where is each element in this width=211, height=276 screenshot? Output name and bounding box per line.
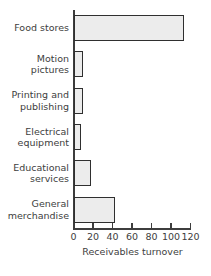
bar-row: Educational services [0,155,211,191]
bar-row: Electrical equipment [0,119,211,155]
bar-label-electrical-equipment: Electrical equipment [0,126,69,149]
plot-area: Food stores Motion pictures Printing and… [0,0,211,228]
bar-educational-services [74,160,91,186]
x-axis-tick [112,223,114,228]
value-axis: Receivables turnover 020406080100120 [0,228,211,276]
x-axis-tick [73,223,75,228]
bar-row: Food stores [0,10,211,46]
bar-label-educational-services: Educational services [0,162,69,185]
receivables-turnover-bar-chart: Food stores Motion pictures Printing and… [0,0,211,276]
x-axis-tick [151,223,153,228]
bar-label-printing-and-publishing: Printing and publishing [0,89,69,112]
bar-label-motion-pictures: Motion pictures [0,53,69,76]
bar-row: General merchandise [0,192,211,228]
bar-label-general-merchandise: General merchandise [0,198,69,221]
x-axis-title: Receivables turnover [0,246,211,257]
x-axis-tick-label: 80 [145,231,157,242]
x-axis-tick-label: 60 [126,231,138,242]
bar-printing-and-publishing [74,88,83,114]
x-axis-tick-label: 120 [181,231,199,242]
bar-electrical-equipment [74,124,81,150]
bar-motion-pictures [74,51,83,77]
x-axis-tick [190,223,192,228]
x-axis-tick-label: 40 [106,231,118,242]
x-axis-tick-label: 100 [162,231,180,242]
bar-row: Motion pictures [0,46,211,82]
x-axis-tick-label: 20 [87,231,99,242]
bar-label-food-stores: Food stores [0,22,69,34]
bar-general-merchandise [74,197,115,223]
x-axis-tick [170,223,172,228]
x-axis-tick [92,223,94,228]
x-axis-tick-label: 0 [70,231,76,242]
bar-food-stores [74,15,184,41]
x-axis-tick [131,223,133,228]
bar-row: Printing and publishing [0,83,211,119]
value-axis-line [73,228,191,230]
